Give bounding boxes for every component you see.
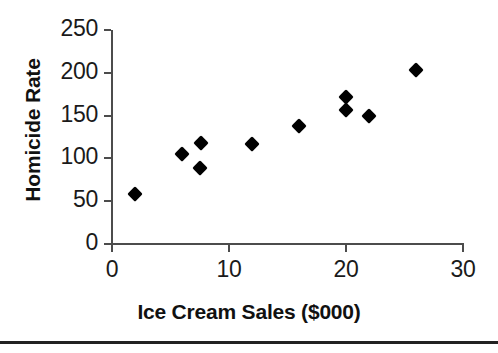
data-point-marker — [174, 146, 190, 162]
data-point-marker — [408, 62, 424, 78]
x-axis-tick — [111, 245, 113, 252]
y-axis-title: Homicide Rate — [21, 35, 45, 225]
x-axis-tick-label: 0 — [82, 256, 142, 283]
y-axis-tick — [104, 243, 111, 245]
y-axis-tick — [104, 29, 111, 31]
x-axis-title: Ice Cream Sales ($000) — [0, 300, 498, 324]
x-axis-tick — [345, 245, 347, 252]
y-axis-tick — [104, 115, 111, 117]
y-axis-tick-label: 0 — [38, 229, 98, 256]
y-axis-tick-label: 250 — [38, 15, 98, 42]
y-axis-tick-label: 200 — [38, 58, 98, 85]
data-point-marker — [291, 118, 307, 134]
y-axis-tick — [104, 72, 111, 74]
y-axis-tick — [104, 200, 111, 202]
y-axis-tick-label: 100 — [38, 143, 98, 170]
y-axis-tick — [104, 157, 111, 159]
x-axis-tick-label: 20 — [316, 256, 376, 283]
data-point-marker — [245, 136, 261, 152]
plot-area — [112, 30, 463, 244]
x-axis-tick-label: 30 — [433, 256, 493, 283]
x-axis-tick-label: 10 — [199, 256, 259, 283]
data-point-marker — [128, 187, 144, 203]
scatter-chart-figure: 0501001502002500102030 Homicide Rate Ice… — [0, 0, 498, 353]
data-point-marker — [192, 160, 208, 176]
data-point-marker — [362, 108, 378, 124]
data-point-marker — [338, 102, 354, 118]
y-axis-tick-label: 50 — [38, 186, 98, 213]
x-axis-tick — [228, 245, 230, 252]
y-axis-tick-label: 150 — [38, 101, 98, 128]
bottom-divider — [0, 341, 498, 344]
data-point-marker — [193, 135, 209, 151]
x-axis-tick — [462, 245, 464, 252]
